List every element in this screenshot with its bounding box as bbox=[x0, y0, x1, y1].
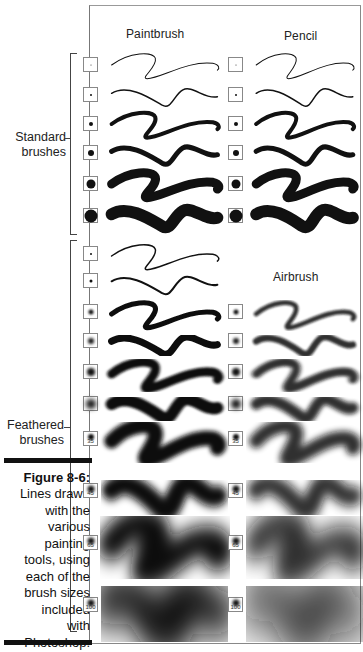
airbrush-feathered-chip bbox=[228, 396, 243, 411]
paintbrush-standard-stroke bbox=[107, 199, 222, 233]
standard-brushes-label: Standard brushes bbox=[2, 130, 66, 160]
brush-tip-icon bbox=[90, 94, 92, 96]
brush-tip-icon bbox=[87, 368, 95, 376]
caption-line: painting bbox=[2, 536, 90, 553]
pencil-column-title: Pencil bbox=[284, 29, 317, 43]
brush-size-label: 65 bbox=[229, 542, 242, 549]
feathered-brushes-label: Feathered brushes bbox=[2, 418, 64, 448]
airbrush-feathered-stroke bbox=[252, 562, 357, 652]
paintbrush-standard-stroke bbox=[107, 48, 222, 82]
pencil-standard-chip bbox=[228, 145, 243, 160]
airbrush-column-title: Airbrush bbox=[273, 270, 318, 284]
airbrush-feathered-chip bbox=[228, 333, 243, 348]
airbrush-feathered-chip: 35 bbox=[228, 431, 243, 446]
figure-number: Figure 8-6: bbox=[2, 470, 90, 486]
brush-tip-icon bbox=[89, 279, 92, 282]
brush-tip-icon bbox=[231, 179, 240, 188]
brush-tip-icon bbox=[234, 122, 238, 126]
paintbrush-standard-chip bbox=[83, 57, 98, 72]
pencil-standard-chip bbox=[228, 87, 243, 102]
airbrush-feathered-chip bbox=[228, 304, 243, 319]
caption-line: Photoshop. bbox=[2, 635, 90, 652]
brush-tip-icon bbox=[235, 94, 237, 96]
caption-line: with the bbox=[2, 503, 90, 520]
paintbrush-feathered-stroke bbox=[107, 326, 222, 360]
standard-label-line1: Standard bbox=[2, 130, 66, 145]
paintbrush-feathered-chip bbox=[83, 273, 98, 288]
brush-tip-icon bbox=[88, 309, 93, 314]
caption-line: with bbox=[2, 618, 90, 635]
pencil-standard-chip bbox=[228, 57, 243, 72]
brush-tip-icon bbox=[88, 150, 94, 156]
brush-tip-icon bbox=[89, 122, 93, 126]
caption-line: Lines drawn bbox=[2, 486, 90, 503]
brush-tip-icon bbox=[233, 338, 239, 344]
paintbrush-standard-chip bbox=[83, 116, 98, 131]
figure-caption: Figure 8-6: Lines drawn with the various… bbox=[2, 470, 90, 651]
pencil-standard-stroke bbox=[252, 136, 357, 170]
feathered-label-line2: brushes bbox=[2, 433, 64, 448]
caption-line: brush sizes bbox=[2, 585, 90, 602]
paintbrush-feathered-stroke bbox=[107, 418, 222, 464]
paintbrush-feathered-chip: 45 bbox=[83, 483, 98, 498]
paintbrush-feathered-chip bbox=[83, 246, 98, 261]
brush-tip-icon bbox=[90, 64, 91, 65]
brush-tip-icon bbox=[90, 253, 92, 255]
pencil-standard-chip bbox=[228, 116, 243, 131]
paintbrush-column-title: Paintbrush bbox=[126, 27, 184, 41]
standard-brushes-bracket bbox=[70, 53, 77, 235]
paintbrush-standard-chip bbox=[83, 176, 98, 191]
pencil-standard-chip bbox=[228, 208, 243, 223]
brush-tip-icon bbox=[84, 209, 97, 222]
brush-size-label: 45 bbox=[84, 490, 97, 497]
airbrush-feathered-chip: 65 bbox=[228, 535, 243, 550]
paintbrush-standard-chip bbox=[83, 145, 98, 160]
feathered-label-tick bbox=[64, 427, 71, 428]
brush-tip-icon bbox=[86, 179, 95, 188]
caption-line: various bbox=[2, 519, 90, 536]
caption-line: included bbox=[2, 602, 90, 619]
brush-size-label: 45 bbox=[229, 490, 242, 497]
brush-size-label: 65 bbox=[84, 542, 97, 549]
paintbrush-standard-chip bbox=[83, 87, 98, 102]
paintbrush-feathered-chip: 65 bbox=[83, 535, 98, 550]
brush-tip-icon bbox=[232, 368, 240, 376]
brush-size-label: 35 bbox=[229, 438, 242, 445]
paintbrush-feathered-stroke bbox=[107, 266, 222, 300]
airbrush-feathered-chip bbox=[228, 364, 243, 379]
feathered-label-line1: Feathered bbox=[2, 418, 64, 433]
brush-size-label: 35 bbox=[84, 438, 97, 445]
paintbrush-feathered-chip bbox=[83, 396, 98, 411]
paintbrush-feathered-chip: 35 bbox=[83, 431, 98, 446]
paintbrush-feathered-chip bbox=[83, 304, 98, 319]
pencil-standard-stroke bbox=[252, 167, 357, 201]
paintbrush-feathered-stroke bbox=[107, 562, 222, 652]
paintbrush-standard-chip bbox=[83, 208, 98, 223]
brush-tip-icon bbox=[233, 309, 238, 314]
brush-tip-icon bbox=[231, 399, 241, 409]
paintbrush-standard-stroke bbox=[107, 167, 222, 201]
airbrush-feathered-chip: 45 bbox=[228, 483, 243, 498]
pencil-standard-stroke bbox=[252, 199, 357, 233]
pencil-standard-stroke bbox=[252, 48, 357, 82]
caption-line: tools, using bbox=[2, 552, 90, 569]
brush-tip-icon bbox=[235, 64, 236, 65]
paintbrush-standard-stroke bbox=[107, 136, 222, 170]
brush-tip-icon bbox=[86, 399, 96, 409]
standard-label-line2: brushes bbox=[2, 145, 66, 160]
brush-tip-icon bbox=[88, 338, 94, 344]
standard-label-tick bbox=[64, 138, 71, 139]
paintbrush-feathered-chip bbox=[83, 333, 98, 348]
airbrush-feathered-stroke bbox=[252, 418, 357, 464]
paintbrush-feathered-chip bbox=[83, 364, 98, 379]
caption-line: each of the bbox=[2, 569, 90, 586]
brush-tip-icon bbox=[229, 209, 242, 222]
brush-tip-icon bbox=[233, 150, 239, 156]
airbrush-feathered-stroke bbox=[252, 326, 357, 360]
pencil-standard-chip bbox=[228, 176, 243, 191]
caption-top-rule bbox=[4, 458, 92, 463]
